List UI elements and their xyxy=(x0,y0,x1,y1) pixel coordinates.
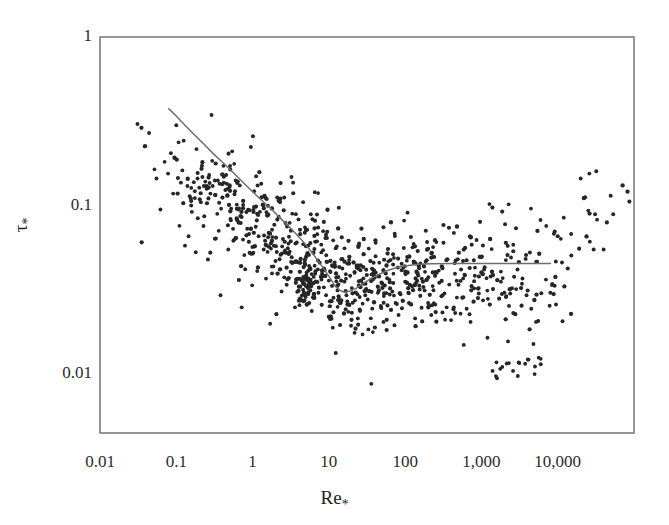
data-point xyxy=(147,131,151,135)
data-point xyxy=(288,221,292,225)
data-point xyxy=(473,274,477,278)
data-point xyxy=(257,234,261,238)
data-point xyxy=(202,214,206,218)
data-point xyxy=(370,267,374,271)
data-point xyxy=(367,247,371,251)
data-point xyxy=(413,276,417,280)
data-point xyxy=(535,229,539,233)
data-point xyxy=(200,160,204,164)
data-point xyxy=(544,224,548,228)
data-point xyxy=(488,303,492,307)
data-point xyxy=(337,265,341,269)
data-point xyxy=(319,251,323,255)
data-point xyxy=(205,201,209,205)
data-point xyxy=(270,238,274,242)
data-point xyxy=(403,270,407,274)
data-point xyxy=(391,252,395,256)
data-point xyxy=(627,200,631,204)
data-point xyxy=(499,270,503,274)
data-point xyxy=(263,239,267,243)
data-point xyxy=(356,323,360,327)
data-point xyxy=(425,248,429,252)
data-point xyxy=(366,327,370,331)
data-point xyxy=(254,174,258,178)
data-point xyxy=(331,326,335,330)
data-point xyxy=(202,224,206,228)
data-point xyxy=(182,139,186,143)
data-point xyxy=(275,250,279,254)
data-point xyxy=(465,258,469,262)
data-point xyxy=(254,225,258,229)
data-point xyxy=(347,255,351,259)
data-point xyxy=(227,203,231,207)
data-point xyxy=(358,295,362,299)
data-point xyxy=(325,236,329,240)
data-point xyxy=(529,207,533,211)
data-point xyxy=(443,318,447,322)
data-point xyxy=(153,168,157,172)
data-point xyxy=(366,298,370,302)
data-point xyxy=(307,253,311,257)
data-point xyxy=(483,265,487,269)
data-point xyxy=(534,292,538,296)
data-point xyxy=(519,286,523,290)
data-point xyxy=(385,251,389,255)
data-point xyxy=(193,189,197,193)
data-point xyxy=(239,210,243,214)
data-point xyxy=(262,248,266,252)
data-point xyxy=(136,122,140,126)
data-point xyxy=(331,264,335,268)
data-point xyxy=(469,288,473,292)
data-point xyxy=(491,273,495,277)
data-point xyxy=(413,324,417,328)
data-point xyxy=(264,277,268,281)
data-point xyxy=(587,211,591,215)
data-point xyxy=(280,245,284,249)
data-point xyxy=(208,192,212,196)
data-point xyxy=(350,311,354,315)
data-point xyxy=(569,312,573,316)
data-point xyxy=(229,207,233,211)
data-point xyxy=(531,342,535,346)
data-point xyxy=(389,258,393,262)
x-tick-label: 10,000 xyxy=(513,452,603,472)
data-point xyxy=(290,175,294,179)
data-point xyxy=(245,227,249,231)
data-point xyxy=(514,287,518,291)
data-point xyxy=(290,255,294,259)
data-point xyxy=(453,311,457,315)
data-point xyxy=(311,295,315,299)
data-point xyxy=(365,273,369,277)
data-point xyxy=(519,304,523,308)
data-point xyxy=(569,232,573,236)
data-point xyxy=(420,306,424,310)
data-point xyxy=(226,223,230,227)
data-point xyxy=(187,234,191,238)
data-point xyxy=(385,303,389,307)
data-point xyxy=(401,299,405,303)
data-point xyxy=(244,233,248,237)
data-point xyxy=(369,382,373,386)
data-point xyxy=(280,252,284,256)
data-point xyxy=(505,253,509,257)
data-point xyxy=(449,318,453,322)
data-point xyxy=(431,255,435,259)
data-point xyxy=(198,197,202,201)
data-point xyxy=(472,279,476,283)
data-point xyxy=(253,244,257,248)
data-point xyxy=(328,269,332,273)
data-point xyxy=(336,275,340,279)
data-point xyxy=(335,244,339,248)
data-point xyxy=(406,286,410,290)
data-point xyxy=(196,216,200,220)
data-point xyxy=(551,292,555,296)
data-point xyxy=(457,251,461,255)
data-point xyxy=(447,283,451,287)
data-point xyxy=(175,158,179,162)
data-point xyxy=(312,226,316,230)
data-point xyxy=(283,240,287,244)
data-point xyxy=(183,244,187,248)
data-point xyxy=(316,191,320,195)
data-point xyxy=(217,229,221,233)
data-point xyxy=(424,260,428,264)
